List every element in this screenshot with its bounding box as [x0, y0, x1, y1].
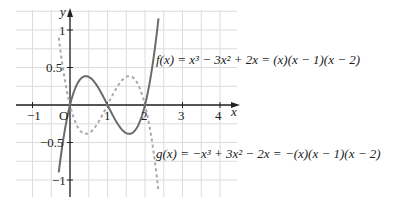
x-tick-label-1: 1 [104, 108, 111, 123]
y-tick-label-neg1: −1 [52, 173, 66, 188]
y-tick-label-neg0.5: −0.5 [40, 135, 64, 150]
axes [16, 8, 240, 197]
y-axis-label: y [58, 4, 66, 19]
grid [16, 10, 237, 197]
f-function-label: f(x) = x³ − 3x² + 2x = (x)(x − 1)(x − 2) [156, 52, 360, 67]
y-tick-label-1: 1 [59, 23, 66, 38]
g-function-label: g(x) = −x³ + 3x² − 2x = −(x)(x − 1)(x − … [156, 146, 381, 161]
x-axis-label: x [230, 104, 237, 119]
y-tick-label-0.5: 0.5 [46, 60, 62, 75]
x-tick-label-4: 4 [215, 108, 222, 123]
y-axis-arrow-icon [67, 8, 73, 17]
x-tick-label-neg1: −1 [27, 108, 41, 123]
origin-label: O [59, 108, 68, 123]
f-curve [59, 18, 159, 172]
x-tick-label-2: 2 [141, 108, 148, 123]
x-tick-label-3: 3 [178, 108, 185, 123]
chart-canvas: y x O −1 1 2 3 4 1 0.5 −0.5 −1 f(x) = x³… [0, 0, 397, 208]
